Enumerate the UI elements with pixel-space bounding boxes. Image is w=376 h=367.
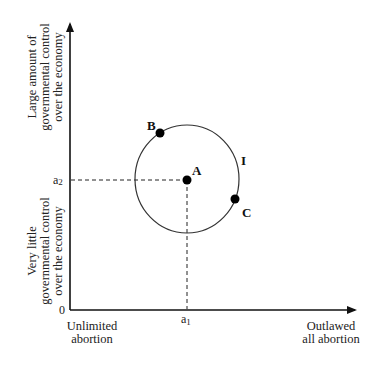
x-axis-right-label-line2: all abortion: [302, 332, 360, 346]
origin-label: 0: [59, 303, 65, 317]
point-a: [183, 176, 192, 185]
point-b: [156, 129, 165, 138]
y-axis-bottom-label: Very little governmental control over th…: [25, 197, 65, 305]
point-b-label: B: [147, 118, 156, 133]
a1-tick-label: a1: [181, 312, 191, 327]
x-axis-left-label-line1: Unlimited: [67, 319, 118, 333]
point-c: [231, 195, 240, 204]
point-a-label: A: [192, 163, 202, 178]
x-axis-left-label-line2: abortion: [71, 332, 113, 346]
a1-tick-sub: 1: [186, 317, 191, 327]
y-axis-top-label: Large amount of governmental control ove…: [25, 23, 65, 131]
a2-tick-label: a2: [53, 173, 63, 187]
x-axis-right-label-line1: Outlawed: [307, 319, 356, 333]
y-axis-top-label-line2: governmental control: [38, 23, 52, 131]
y-axis-bottom-label-line3: over the economy: [51, 205, 65, 295]
y-axis-top-label-line3: over the economy: [51, 31, 65, 121]
y-axis-bottom-label-line1: Very little: [25, 226, 39, 276]
curve-i-label: I: [241, 153, 246, 168]
y-axis-bottom-label-line2: governmental control: [38, 197, 52, 305]
political-indifference-diagram: A B C I a2 a1 0 Unlimited abortion Outla…: [0, 0, 376, 367]
point-c-label: C: [242, 205, 251, 220]
y-axis-top-label-line1: Large amount of: [25, 35, 39, 119]
a2-tick-sub: 2: [58, 177, 63, 187]
